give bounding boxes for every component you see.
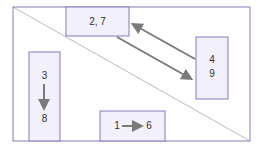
box-top-label: 2, 7 [66,16,129,27]
box-bottom-label-right: 6 [144,120,154,131]
box-left-label-bottom: 8 [29,113,60,124]
box-right-label-top: 4 [196,54,228,65]
box-bottom-label-left: 1 [112,120,122,131]
box-right-label-bottom: 9 [196,68,228,79]
box-left-label-top: 3 [29,70,60,81]
